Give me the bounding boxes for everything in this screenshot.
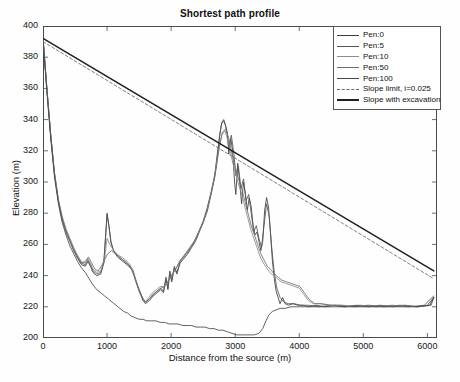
- legend-label: Pen:0: [363, 30, 384, 40]
- y-tick-label: 340: [8, 114, 38, 124]
- y-tick-label: 280: [8, 207, 38, 217]
- legend-label: Slope limit, i=0.025: [363, 84, 431, 94]
- x-tick-label: 0: [21, 341, 65, 351]
- legend-swatch: [337, 46, 359, 47]
- legend-label: Pen:100: [363, 74, 393, 84]
- y-tick-label: 320: [8, 145, 38, 155]
- chart-title: Shortest path profile: [0, 8, 460, 19]
- legend-item[interactable]: Slope with excavation: [337, 95, 437, 106]
- legend-label: Slope with excavation: [363, 95, 440, 105]
- legend-item[interactable]: Pen:0: [337, 30, 437, 41]
- y-tick-label: 400: [8, 20, 38, 30]
- x-tick-label: 6000: [405, 341, 449, 351]
- legend-label: Pen:5: [363, 41, 384, 51]
- y-tick-label: 260: [8, 238, 38, 248]
- x-tick-label: 5000: [341, 341, 385, 351]
- legend-item[interactable]: Pen:10: [337, 52, 437, 63]
- figure: Shortest path profile Elevation (m) Dist…: [0, 0, 460, 382]
- legend-swatch: [337, 35, 359, 36]
- y-tick-label: 300: [8, 176, 38, 186]
- legend-item[interactable]: Slope limit, i=0.025: [337, 84, 437, 95]
- y-tick-label: 380: [8, 51, 38, 61]
- x-tick-label: 1000: [85, 341, 129, 351]
- x-tick-label: 2000: [149, 341, 193, 351]
- legend-label: Pen:50: [363, 63, 388, 73]
- legend-swatch: [337, 56, 359, 57]
- legend-swatch: [337, 89, 359, 90]
- legend-swatch: [337, 67, 359, 68]
- legend-item[interactable]: Pen:50: [337, 62, 437, 73]
- y-tick-label: 240: [8, 270, 38, 280]
- x-tick-label: 3000: [213, 341, 257, 351]
- legend-swatch: [337, 99, 359, 101]
- x-tick-label: 4000: [277, 341, 321, 351]
- legend-swatch: [337, 78, 359, 79]
- legend-item[interactable]: Pen:5: [337, 41, 437, 52]
- legend-label: Pen:10: [363, 52, 388, 62]
- y-tick-label: 360: [8, 82, 38, 92]
- legend-item[interactable]: Pen:100: [337, 73, 437, 84]
- x-axis-label: Distance from the source (m): [0, 352, 460, 363]
- legend: Pen:0Pen:5Pen:10Pen:50Pen:100Slope limit…: [333, 26, 441, 110]
- y-tick-label: 220: [8, 301, 38, 311]
